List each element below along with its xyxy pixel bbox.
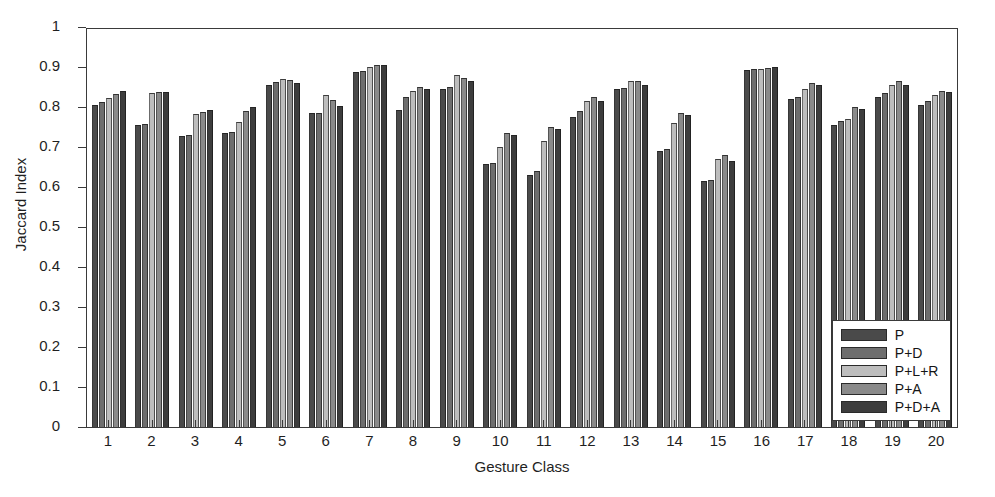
bar [788,99,794,427]
y-axis-tick-label: 0.5 [39,218,60,234]
y-axis-title: Jaccard Index [12,35,29,375]
y-axis-tick: 0.8 [0,107,86,108]
y-axis-tick-mark [78,187,86,188]
bar [403,97,409,427]
bar [207,110,213,427]
bar [708,180,714,427]
bar [483,164,489,427]
legend-swatch [841,365,887,377]
bar [461,78,467,427]
y-axis-tick-mark [78,67,86,68]
bar [410,91,416,427]
y-axis-tick-mark [78,107,86,108]
bar-group [135,29,170,427]
bar-group [700,29,735,427]
bar [163,92,169,427]
x-axis-tick-label: 3 [175,432,215,456]
y-axis-tick-label: 0.3 [39,298,60,314]
bar [621,88,627,427]
bar [678,113,684,427]
bar [657,151,663,427]
bar [135,125,141,427]
y-axis-tick: 0.3 [0,307,86,308]
bar [222,133,228,427]
bar [424,89,430,427]
bar [294,83,300,427]
bar [614,89,620,427]
bar [316,113,322,427]
bar [772,67,778,427]
bar [548,127,554,427]
bar [236,122,242,427]
bar [701,181,707,427]
x-axis-tick-label: 19 [872,432,912,456]
x-axis-tick-label: 17 [785,432,825,456]
bar [570,117,576,427]
y-axis-tick-label: 0.4 [39,258,60,274]
bar [353,72,359,427]
bar [440,89,446,427]
x-axis-tick-label: 13 [611,432,651,456]
bar [113,94,119,427]
bar [541,141,547,427]
legend-label: P+D+A [895,400,940,414]
y-axis-tick-label: 0.1 [39,378,60,394]
bar [120,91,126,427]
bar [106,98,112,427]
y-axis-tick-mark [78,427,86,428]
x-axis-tick-label: 5 [262,432,302,456]
legend-label: P+D [895,346,923,360]
bar [367,67,373,427]
bar-group [439,29,474,427]
bar [497,147,503,427]
bar [323,95,329,427]
bar [816,85,822,427]
bar-group [309,29,344,427]
legend-item[interactable]: P+D [841,345,940,360]
y-axis-tick-label: 1 [52,18,60,34]
bars-layer [87,29,957,427]
bar [309,113,315,427]
bar [628,81,634,427]
bar [417,87,423,427]
x-axis-tick-label: 20 [916,432,956,456]
bar [280,79,286,427]
bar-group [222,29,257,427]
bar [642,85,648,427]
legend-item[interactable]: P+D+A [841,399,940,414]
bar-group [657,29,692,427]
y-axis-tick: 0.1 [0,387,86,388]
bar [577,111,583,427]
x-axis-tick-label: 11 [524,432,564,456]
bar-group [396,29,431,427]
bar [722,155,728,427]
legend-swatch [841,401,887,413]
y-axis-tick-label: 0.6 [39,178,60,194]
legend-item[interactable]: P [841,327,940,342]
x-axis-tick-label: 18 [829,432,869,456]
y-axis-tick-mark [78,387,86,388]
bar [765,68,771,427]
bar [598,101,604,427]
x-axis-tick-label: 12 [567,432,607,456]
bar [729,161,735,427]
bar [360,71,366,427]
bar [758,69,764,427]
bar [142,124,148,427]
bar [468,81,474,427]
bar-group [570,29,605,427]
y-axis-tick: 0.2 [0,347,86,348]
y-axis-tick: 0.6 [0,187,86,188]
bar-group [178,29,213,427]
y-axis-tick: 1 [0,27,86,28]
legend-item[interactable]: P+A [841,381,940,396]
legend-swatch [841,329,887,341]
bar [156,92,162,427]
bar [330,100,336,427]
bar-group [265,29,300,427]
bar [179,136,185,427]
y-axis-tick: 0.4 [0,267,86,268]
bar [591,97,597,427]
legend-item[interactable]: P+L+R [841,363,940,378]
y-axis-tick-label: 0.8 [39,98,60,114]
